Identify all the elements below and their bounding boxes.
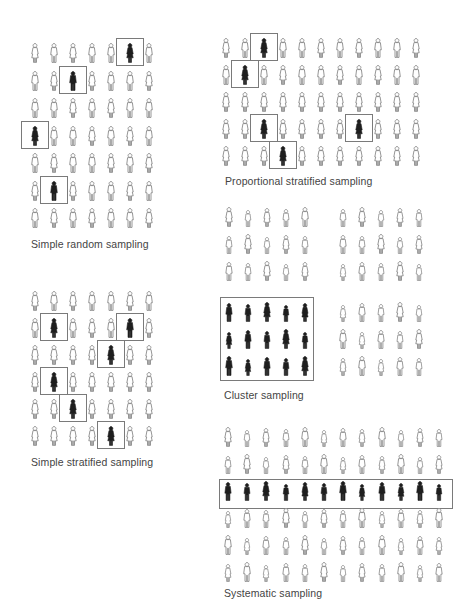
person-icon	[279, 65, 287, 85]
person-icon	[243, 562, 251, 582]
person-icon	[374, 119, 382, 139]
person-icon	[301, 236, 308, 254]
person-icon	[145, 345, 153, 365]
person-icon	[317, 65, 325, 85]
person-icon	[282, 563, 290, 582]
person-icon	[126, 345, 134, 365]
person-icon	[145, 181, 153, 201]
person-icon	[336, 38, 344, 58]
person-icon	[263, 565, 270, 582]
person-icon	[377, 330, 385, 349]
person-icon	[336, 65, 344, 85]
selected-person-icon	[69, 71, 77, 91]
selected-person-icon	[301, 482, 309, 501]
selected-person-icon	[263, 331, 270, 349]
person-icon	[282, 537, 289, 555]
person-icon	[222, 92, 230, 112]
selected-person-icon	[397, 483, 404, 501]
person-icon	[88, 208, 96, 228]
person-icon	[260, 65, 268, 85]
person-icon	[50, 291, 58, 311]
selected-person-icon	[107, 426, 115, 446]
person-icon	[88, 318, 96, 338]
person-icon	[298, 146, 306, 166]
person-icon	[145, 208, 153, 228]
person-icon	[243, 509, 251, 528]
person-icon	[393, 92, 401, 112]
person-icon	[283, 264, 290, 281]
person-icon	[416, 305, 423, 322]
selected-person-icon	[263, 357, 271, 376]
person-icon	[416, 264, 423, 281]
person-icon	[126, 399, 134, 419]
person-icon	[436, 429, 443, 447]
person-icon	[107, 208, 115, 228]
person-icon	[145, 291, 153, 311]
person-icon	[126, 71, 134, 91]
person-icon	[298, 65, 306, 85]
person-icon	[69, 208, 77, 228]
person-icon	[435, 508, 443, 528]
person-icon	[88, 153, 96, 173]
person-icon	[374, 146, 382, 166]
person-icon	[374, 65, 382, 85]
selected-person-icon	[226, 332, 233, 349]
person-icon	[225, 262, 233, 281]
person-icon	[107, 318, 115, 338]
person-icon	[224, 535, 232, 555]
person-icon	[301, 564, 308, 582]
person-icon	[396, 331, 403, 349]
person-icon	[69, 181, 77, 201]
person-icon	[88, 345, 96, 365]
person-icon	[358, 508, 366, 528]
person-icon	[107, 43, 115, 63]
person-icon	[358, 207, 366, 227]
person-icon	[378, 456, 385, 474]
person-icon	[415, 329, 423, 349]
person-icon	[69, 372, 77, 392]
person-icon	[88, 399, 96, 419]
person-icon	[31, 345, 39, 365]
person-icon	[50, 98, 58, 118]
person-icon	[340, 510, 347, 528]
person-icon	[69, 291, 77, 311]
person-icon	[145, 318, 153, 338]
person-icon	[340, 457, 347, 474]
person-icon	[396, 357, 404, 376]
person-icon	[69, 98, 77, 118]
caption-cluster-sampling: Cluster sampling	[224, 389, 304, 401]
person-icon	[88, 71, 96, 91]
selected-person-icon	[339, 481, 347, 501]
caption-systematic-sampling: Systematic sampling	[224, 587, 322, 599]
person-icon	[397, 430, 404, 447]
person-icon	[107, 126, 115, 146]
person-icon	[145, 153, 153, 173]
person-icon	[50, 71, 58, 91]
selected-person-icon	[436, 484, 443, 501]
person-icon	[88, 43, 96, 63]
person-icon	[241, 119, 249, 139]
person-icon	[339, 536, 347, 555]
person-icon	[279, 119, 287, 139]
person-icon	[260, 92, 268, 112]
selected-person-icon	[301, 356, 309, 376]
person-icon	[416, 536, 424, 555]
person-icon	[282, 508, 290, 528]
person-icon	[282, 209, 289, 227]
caption-proportional-stratified-sampling: Proportional stratified sampling	[225, 175, 372, 187]
selected-person-icon	[320, 483, 327, 501]
selected-person-icon	[225, 303, 233, 322]
person-icon	[31, 426, 39, 446]
person-icon	[393, 38, 401, 58]
person-icon	[339, 209, 346, 227]
person-icon	[69, 426, 77, 446]
person-icon	[263, 261, 271, 281]
person-icon	[126, 98, 134, 118]
person-icon	[224, 456, 231, 474]
person-icon	[107, 399, 115, 419]
selected-person-icon	[355, 119, 363, 139]
person-icon	[358, 303, 366, 322]
person-icon	[358, 236, 365, 254]
person-icon	[263, 457, 270, 474]
selected-person-icon	[225, 356, 233, 376]
